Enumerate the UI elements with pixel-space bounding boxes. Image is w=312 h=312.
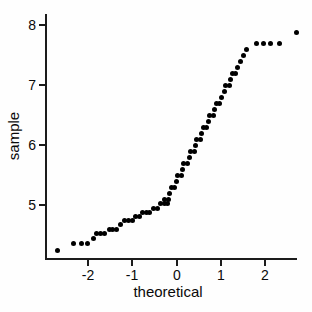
data-point — [91, 236, 96, 241]
data-point — [172, 185, 177, 190]
data-point — [227, 83, 232, 88]
data-point — [198, 137, 203, 142]
y-tick — [39, 24, 45, 26]
data-point — [254, 41, 259, 46]
data-point — [185, 161, 190, 166]
x-tick — [176, 260, 178, 266]
data-point — [165, 201, 170, 206]
x-axis-title: theoretical — [106, 283, 230, 301]
y-tick — [39, 84, 45, 86]
x-tick-label: -2 — [73, 267, 103, 283]
data-point — [118, 222, 123, 227]
data-point — [228, 77, 233, 82]
data-point — [114, 227, 119, 232]
data-point — [71, 241, 76, 246]
data-point — [268, 41, 273, 46]
data-point — [102, 231, 107, 236]
data-point — [79, 241, 84, 246]
x-tick — [87, 260, 89, 266]
data-point — [244, 47, 249, 52]
data-point — [222, 89, 227, 94]
y-tick-label: 8 — [15, 17, 36, 33]
data-point — [206, 119, 211, 124]
data-point — [179, 173, 184, 178]
data-point — [85, 241, 90, 246]
data-point — [233, 71, 238, 76]
x-tick — [220, 260, 222, 266]
x-axis-line — [45, 258, 297, 260]
data-point — [277, 41, 282, 46]
data-point — [238, 59, 243, 64]
x-tick — [131, 260, 133, 266]
data-point — [294, 30, 299, 35]
x-tick-label: 2 — [250, 267, 280, 283]
x-tick — [264, 260, 266, 266]
x-tick-label: 1 — [206, 267, 236, 283]
data-point — [192, 149, 197, 154]
data-point — [174, 179, 179, 184]
data-point — [204, 125, 209, 130]
data-point — [212, 107, 217, 112]
data-point — [219, 95, 224, 100]
data-point — [155, 206, 160, 211]
x-tick-label: 0 — [162, 267, 192, 283]
data-point — [187, 155, 192, 160]
data-point — [217, 101, 222, 106]
data-point — [211, 113, 216, 118]
data-point — [166, 197, 171, 202]
x-tick-label: -1 — [117, 267, 147, 283]
y-tick-label: 7 — [15, 77, 36, 93]
data-point — [235, 65, 240, 70]
y-axis-line — [45, 14, 47, 260]
data-point — [180, 167, 185, 172]
data-point — [199, 131, 204, 136]
y-tick — [39, 204, 45, 206]
qq-plot: 8 7 6 5 -2 -1 0 1 2 sample theoretical — [0, 0, 312, 312]
data-point — [167, 191, 172, 196]
data-point — [261, 41, 266, 46]
y-tick — [39, 144, 45, 146]
y-axis-title: sample — [5, 100, 23, 172]
data-point — [55, 248, 60, 253]
y-tick-label: 5 — [15, 197, 36, 213]
data-point — [241, 53, 246, 58]
data-point — [193, 143, 198, 148]
